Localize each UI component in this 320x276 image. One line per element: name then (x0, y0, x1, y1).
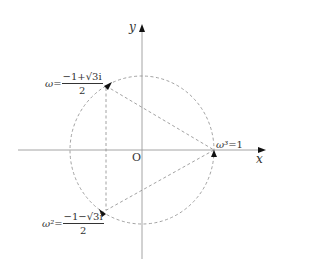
omega-cubed-symbol: ω³ (216, 140, 228, 150)
omega-cubed-label: ω³ = 1 (216, 140, 243, 150)
omega-cubed-value: 1 (237, 140, 243, 150)
omega-cubed-equals: = (228, 140, 236, 150)
omega-label: ω = −1+√3i 2 (45, 72, 103, 96)
omega-squared-numerator: −1−√3i (63, 212, 104, 224)
y-axis-arrow-icon (139, 24, 145, 32)
x-axis-label: x (256, 153, 263, 165)
omega-squared-symbol: ω² (42, 219, 54, 229)
y-axis-label: y (129, 21, 136, 33)
omega-numerator: −1+√3i (62, 72, 103, 84)
origin-label: O (132, 152, 141, 163)
triangle-side-one-to-omega2 (103, 150, 214, 212)
triangle-side-omega-to-one (106, 86, 214, 150)
omega-symbol: ω (45, 79, 53, 89)
omega-squared-equals: = (54, 219, 62, 229)
omega-squared-label: ω² = −1−√3i 2 (42, 212, 104, 236)
omega-squared-fraction: −1−√3i 2 (63, 212, 104, 236)
omega-denominator: 2 (79, 84, 85, 96)
omega-squared-denominator: 2 (80, 224, 86, 236)
omega-fraction: −1+√3i 2 (62, 72, 103, 96)
omega-equals: = (53, 79, 61, 89)
